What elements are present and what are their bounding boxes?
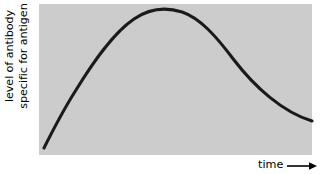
y-axis-label: level of antibody specific for antigen (0, 0, 34, 119)
x-axis-label-text: time (258, 159, 283, 171)
y-axis-label-line-2: specific for antigen (17, 3, 31, 108)
antibody-response-figure: level of antibody specific for antigen t… (0, 0, 320, 174)
plot-area (39, 4, 312, 155)
x-axis-label: time (258, 159, 317, 171)
arrow-right-icon (287, 161, 317, 171)
y-axis-label-line-1: level of antibody (3, 10, 17, 102)
